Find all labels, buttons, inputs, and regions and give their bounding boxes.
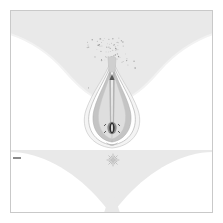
left-tick-dash bbox=[13, 157, 21, 159]
upper-hood bbox=[108, 57, 116, 73]
anatomical-illustration bbox=[0, 0, 223, 223]
illustration-canvas bbox=[0, 0, 223, 223]
starburst-marker bbox=[107, 154, 120, 167]
